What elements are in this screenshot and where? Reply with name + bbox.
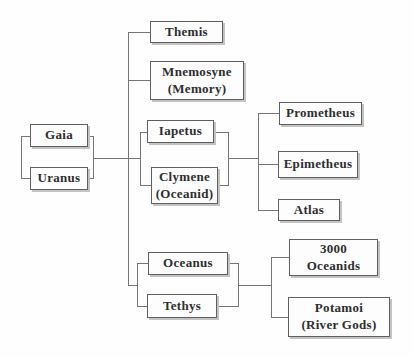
- edge-clymene-right-stub: [218, 185, 228, 186]
- node-uranus-label: Uranus: [38, 170, 81, 187]
- edge-tethys-left-stub: [137, 306, 147, 307]
- node-3000-oceanids: 3000 Oceanids: [289, 239, 378, 276]
- node-oceanus: Oceanus: [148, 252, 228, 275]
- edge-iapetus-right-stub: [214, 132, 228, 133]
- edge-iapetus-clymene-right-bracket: [228, 132, 229, 186]
- edge-couple-to-trunk: [93, 158, 140, 159]
- edge-iapetus-couple-to-children: [228, 158, 258, 159]
- edge-oceanus-tethys-left-bracket: [137, 263, 138, 307]
- edge-gaia-right-stub: [88, 136, 93, 137]
- family-tree-diagram: Gaia Uranus Themis Mnemosyne (Memory) Ia…: [0, 0, 413, 357]
- node-potamoi-label: Potamoi: [315, 300, 363, 317]
- edge-oceanus-left-stub: [137, 263, 148, 264]
- node-mnemosyne: Mnemosyne (Memory): [150, 61, 244, 100]
- edge-uranus-right-stub: [88, 178, 93, 179]
- edge-uranus-left-stub: [21, 178, 30, 179]
- node-gaia-label: Gaia: [45, 127, 73, 144]
- node-3000-oceanids-sublabel: Oceanids: [307, 258, 361, 275]
- edge-iapetus-left-stub: [140, 132, 147, 133]
- node-gaia: Gaia: [30, 124, 88, 147]
- node-clymene-label: Clymene: [159, 169, 210, 186]
- edge-oceanus-right-stub: [228, 263, 238, 264]
- node-tethys-label: Tethys: [163, 298, 201, 315]
- node-prometheus: Prometheus: [279, 102, 362, 125]
- node-iapetus: Iapetus: [147, 120, 214, 143]
- node-themis: Themis: [150, 21, 223, 43]
- edge-branch-themis: [128, 32, 150, 33]
- node-oceanus-label: Oceanus: [163, 255, 213, 272]
- node-epimetheus-label: Epimetheus: [284, 156, 353, 173]
- edge-branch-mnemosyne: [128, 80, 150, 81]
- edge-iapetus-children-rail: [258, 113, 259, 211]
- edge-iapetus-clymene-left-bracket: [140, 132, 141, 186]
- edge-trunk-to-oceanus-couple: [128, 285, 137, 286]
- node-atlas-label: Atlas: [294, 202, 324, 219]
- node-tethys: Tethys: [147, 294, 217, 318]
- edge-descent-trunk: [128, 32, 129, 286]
- node-prometheus-label: Prometheus: [286, 105, 355, 122]
- node-atlas: Atlas: [278, 199, 340, 221]
- node-potamoi-sublabel: (River Gods): [301, 317, 376, 334]
- node-potamoi: Potamoi (River Gods): [288, 297, 390, 337]
- edge-oceanus-children-rail: [271, 257, 272, 318]
- node-mnemosyne-label: Mnemosyne: [162, 64, 232, 81]
- node-clymene-sublabel: (Oceanid): [156, 186, 214, 203]
- edge-gaia-left-stub: [21, 136, 30, 137]
- edge-branch-epimetheus: [258, 164, 278, 165]
- node-uranus: Uranus: [30, 167, 88, 190]
- edge-oceanus-couple-to-children: [238, 285, 271, 286]
- node-themis-label: Themis: [165, 24, 208, 41]
- node-epimetheus: Epimetheus: [278, 151, 358, 178]
- edge-branch-prometheus: [258, 113, 279, 114]
- edge-clymene-left-stub: [140, 185, 151, 186]
- node-3000-oceanids-label: 3000: [320, 241, 347, 258]
- edge-branch-potamoi: [271, 317, 288, 318]
- node-clymene: Clymene (Oceanid): [151, 167, 218, 204]
- node-iapetus-label: Iapetus: [159, 123, 202, 140]
- edge-gaia-uranus-left-bracket: [21, 136, 22, 179]
- edge-branch-oceanids: [271, 257, 289, 258]
- edge-branch-atlas: [258, 210, 278, 211]
- node-mnemosyne-sublabel: (Memory): [168, 81, 227, 98]
- edge-tethys-right-stub: [217, 306, 238, 307]
